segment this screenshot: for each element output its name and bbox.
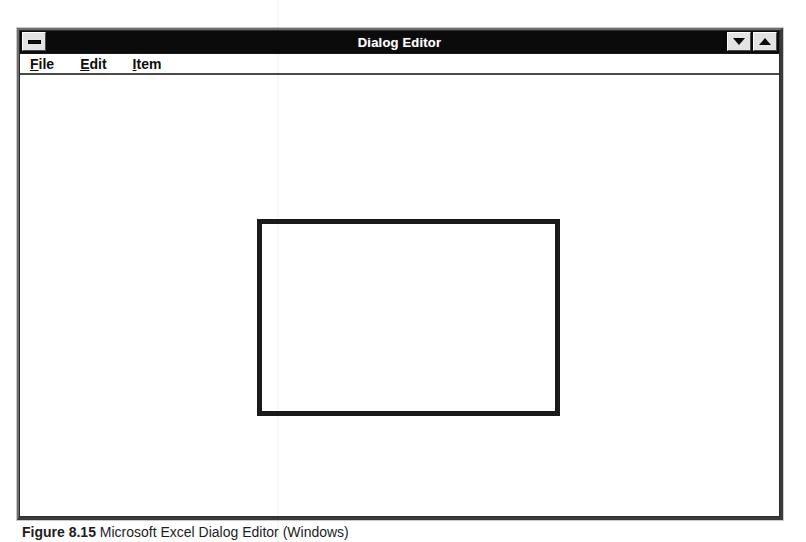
window-inner-frame: Dialog Editor File Edit Item bbox=[19, 30, 780, 517]
figure-caption-label: Figure 8.15 bbox=[22, 524, 96, 540]
triangle-up-icon bbox=[759, 38, 771, 45]
menu-item-file[interactable]: File bbox=[30, 57, 54, 71]
dialog-frame[interactable] bbox=[257, 219, 560, 416]
title-bar[interactable]: Dialog Editor bbox=[20, 31, 779, 54]
triangle-down-icon bbox=[733, 38, 745, 45]
minimize-button[interactable] bbox=[727, 32, 751, 51]
menu-item-file-accel: F bbox=[30, 56, 39, 72]
menu-bar: File Edit Item bbox=[20, 54, 779, 75]
minimize-bar-icon bbox=[28, 40, 41, 44]
menu-item-file-rest: ile bbox=[39, 56, 55, 72]
figure-caption-body: Microsoft Excel Dialog Editor (Windows) bbox=[100, 524, 349, 540]
menu-item-edit-rest: dit bbox=[89, 56, 106, 72]
dialog-editor-window: Dialog Editor File Edit Item bbox=[17, 28, 783, 520]
editor-canvas[interactable] bbox=[20, 75, 779, 516]
system-menu-button[interactable] bbox=[22, 32, 46, 51]
menu-item-item[interactable]: Item bbox=[133, 57, 162, 71]
window-controls bbox=[727, 32, 777, 51]
window-title: Dialog Editor bbox=[358, 35, 442, 50]
menu-item-edit[interactable]: Edit bbox=[80, 57, 106, 71]
figure-caption: Figure 8.15 Microsoft Excel Dialog Edito… bbox=[22, 524, 762, 540]
maximize-button[interactable] bbox=[753, 32, 777, 51]
menu-item-item-rest: tem bbox=[136, 56, 161, 72]
